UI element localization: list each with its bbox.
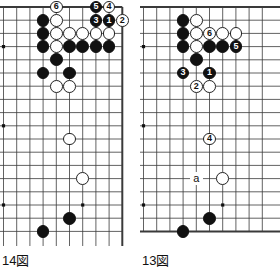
stone-black bbox=[177, 225, 190, 238]
stone-black bbox=[63, 40, 76, 53]
stone-white bbox=[190, 40, 203, 53]
stone-white bbox=[63, 80, 76, 93]
go-board-14: 654312 bbox=[0, 0, 140, 246]
stone-black bbox=[190, 53, 203, 66]
stone-black bbox=[63, 212, 76, 225]
stone-white bbox=[76, 27, 89, 40]
stone-black bbox=[203, 212, 216, 225]
stone-black bbox=[37, 27, 50, 40]
stone-black bbox=[63, 67, 76, 80]
stone-black bbox=[203, 40, 216, 53]
stone-white bbox=[76, 172, 89, 185]
stone-white bbox=[90, 27, 103, 40]
board-caption-13: 13図 bbox=[142, 250, 169, 269]
stone-black bbox=[177, 14, 190, 27]
move-stone-5: 5 bbox=[230, 40, 243, 53]
stone-black bbox=[177, 27, 190, 40]
move-stone-2: 2 bbox=[116, 14, 129, 27]
go-board-13: 653124a bbox=[140, 0, 280, 246]
stone-white bbox=[50, 40, 63, 53]
board-caption-14: 14図 bbox=[2, 250, 29, 269]
move-stone-6: 6 bbox=[203, 27, 216, 40]
stone-white bbox=[103, 27, 116, 40]
stone-black bbox=[37, 40, 50, 53]
move-stone-3: 3 bbox=[177, 67, 190, 80]
stone-black bbox=[37, 14, 50, 27]
point-marker-a: a bbox=[190, 172, 203, 185]
move-stone-1: 1 bbox=[203, 67, 216, 80]
stone-black bbox=[177, 40, 190, 53]
stone-white bbox=[190, 27, 203, 40]
move-stone-6: 6 bbox=[50, 1, 63, 14]
move-stone-4: 4 bbox=[203, 133, 216, 146]
move-stone-1: 1 bbox=[103, 14, 116, 27]
diagram-page: 654312 653124a 14図 13図 bbox=[0, 0, 280, 273]
move-stone-4: 4 bbox=[103, 1, 116, 14]
stone-white bbox=[230, 27, 243, 40]
stone-black bbox=[216, 40, 229, 53]
stone-black bbox=[103, 40, 116, 53]
stone-white bbox=[216, 27, 229, 40]
stone-layer-13: 653124a bbox=[140, 0, 280, 246]
stone-white bbox=[190, 14, 203, 27]
stone-black bbox=[37, 67, 50, 80]
go-grid-14: 654312 bbox=[0, 0, 140, 246]
stone-black bbox=[76, 40, 89, 53]
stone-white bbox=[216, 172, 229, 185]
stone-black bbox=[37, 225, 50, 238]
stone-white bbox=[203, 80, 216, 93]
stone-white bbox=[50, 14, 63, 27]
stone-layer-14: 654312 bbox=[0, 0, 140, 246]
move-stone-5: 5 bbox=[90, 1, 103, 14]
stone-black bbox=[90, 40, 103, 53]
stone-white bbox=[50, 27, 63, 40]
move-stone-2: 2 bbox=[190, 80, 203, 93]
stone-white bbox=[50, 80, 63, 93]
stone-white bbox=[63, 133, 76, 146]
move-stone-3: 3 bbox=[90, 14, 103, 27]
stone-white bbox=[63, 27, 76, 40]
go-grid-13: 653124a bbox=[140, 0, 280, 246]
stone-black bbox=[50, 53, 63, 66]
